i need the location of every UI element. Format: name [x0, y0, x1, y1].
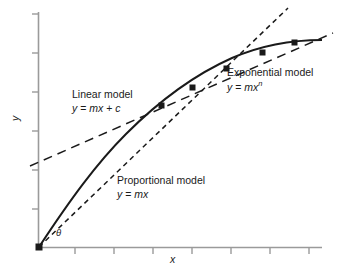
proportional-eq-op1: =	[122, 188, 134, 200]
proportional-eq-mx: mx	[134, 188, 148, 200]
exponential-model-label: Exponential model	[227, 66, 313, 78]
x-axis-ticks	[75, 248, 309, 255]
exponential-model-equation: y = mxn	[227, 80, 262, 93]
theta-angle-label: θ	[56, 228, 61, 239]
linear-model-label: Linear model	[72, 88, 133, 100]
exponential-eq-exponent: n	[258, 79, 262, 88]
y-axis-label: y	[9, 116, 21, 121]
data-point-marker	[159, 103, 165, 109]
linear-eq-mx: mx	[89, 102, 103, 114]
exponential-eq-mx: mx	[244, 81, 258, 93]
proportional-model-line	[39, 8, 288, 247]
data-point-marker	[260, 50, 266, 56]
exponential-eq-op1: =	[232, 81, 244, 93]
linear-eq-op1: =	[77, 102, 89, 114]
y-axis-ticks	[32, 14, 39, 209]
data-point-marker	[36, 244, 43, 251]
x-axis-label: x	[170, 253, 175, 265]
linear-eq-c: c	[115, 102, 120, 114]
data-point-marker	[190, 85, 196, 91]
linear-eq-op2: +	[103, 102, 115, 114]
figure-container: Linear model y = mx + c Exponential mode…	[0, 0, 337, 273]
data-point-marker	[292, 40, 298, 46]
chart-canvas	[0, 0, 337, 273]
linear-model-equation: y = mx + c	[72, 102, 120, 114]
proportional-model-label: Proportional model	[117, 174, 205, 186]
proportional-model-equation: y = mx	[117, 188, 148, 200]
